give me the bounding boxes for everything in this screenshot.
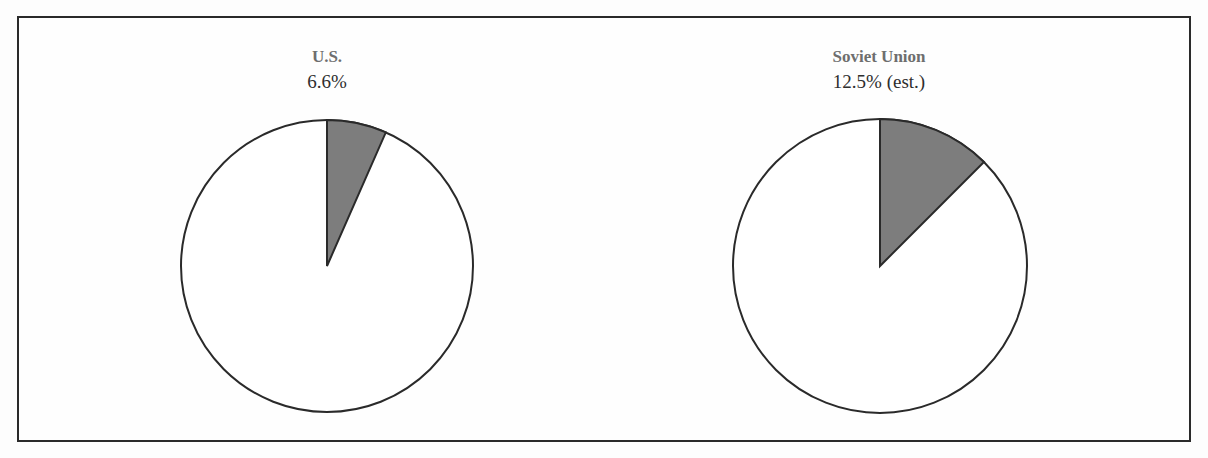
pie-charts: [0, 0, 1208, 458]
us-pie: [181, 120, 473, 412]
soviet-pie: [733, 119, 1027, 413]
